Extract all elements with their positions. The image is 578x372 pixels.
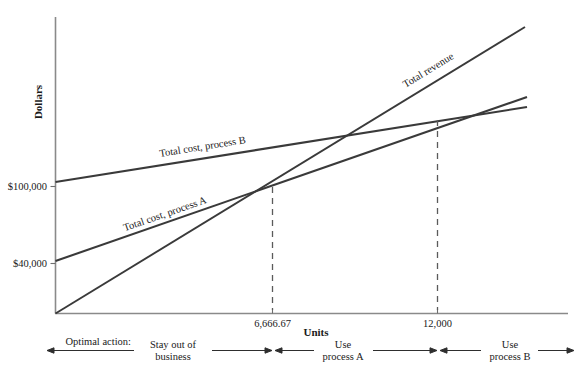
region-bracket-use-process-a: Use process A	[275, 339, 437, 362]
y-tick-label-lower: $40,000	[13, 258, 47, 269]
y-tick-label-upper: $100,000	[8, 181, 47, 192]
region-label-3-line2: process B	[489, 351, 530, 362]
arrow-head-right-region-1	[265, 348, 272, 353]
optimal-action-caption: Optimal action:	[65, 336, 131, 347]
region-label-2-line1: Use	[335, 339, 352, 350]
series-lines-group	[56, 27, 528, 314]
region-label-2-line2: process A	[322, 351, 364, 362]
region-label-1-line2: business	[155, 351, 191, 362]
arrow-head-right-region-2	[430, 348, 437, 353]
axes-group	[55, 17, 568, 314]
tick-marks-group	[51, 187, 438, 314]
chart-canvas: Dollars $100,000 $40,000 6,666.67 12,000…	[0, 0, 578, 372]
series-label-total-cost-process-b: Total cost, process B	[158, 134, 246, 159]
dashed-guides-group	[273, 120, 438, 310]
y-axis-title: Dollars	[32, 84, 44, 119]
x-tick-label-second: 12,000	[423, 318, 452, 329]
series-line-total-cost-process-a	[56, 97, 528, 261]
series-label-total-revenue: Total revenue	[401, 50, 456, 89]
breakeven-chart-figure: Dollars $100,000 $40,000 6,666.67 12,000…	[0, 0, 578, 372]
region-bracket-use-process-b: Use process B	[440, 339, 574, 362]
arrow-head-right-region-3	[567, 348, 574, 353]
region-label-3-line1: Use	[502, 339, 519, 350]
region-label-1-line1: Stay out of	[150, 339, 197, 350]
x-tick-label-first: 6,666.67	[254, 318, 291, 329]
x-axis-title: Units	[303, 326, 329, 338]
